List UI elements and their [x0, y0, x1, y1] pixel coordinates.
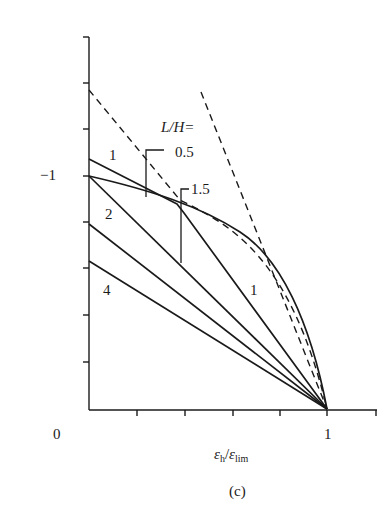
annotation-2: 2: [105, 207, 113, 222]
annotation-0-5: 0.5: [175, 145, 194, 160]
annotation-1-left: 1: [109, 148, 117, 163]
annotation-4: 4: [103, 283, 111, 298]
series-lh2: [89, 224, 327, 409]
bracket-15: [181, 189, 189, 263]
y-tick-label-minus-one: −1: [40, 168, 56, 183]
series-lh4: [89, 261, 327, 409]
x-axis-label: εh/εlim: [214, 447, 248, 464]
series-dashed-steep: [201, 92, 327, 409]
series-lh05: [89, 176, 327, 409]
x-tick-label-one: 1: [324, 427, 332, 442]
annotation-1-right: 1: [250, 283, 258, 298]
annotation-1-5: 1.5: [191, 182, 210, 197]
panel-label: (c): [229, 484, 246, 499]
legend-title-lh: L/H=: [161, 120, 194, 135]
x-tick-label-zero: 0: [53, 427, 61, 442]
